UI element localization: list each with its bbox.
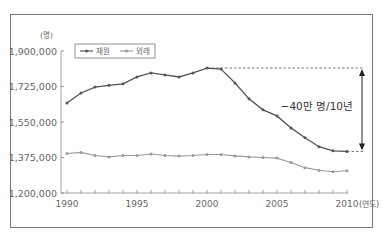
data-point bbox=[66, 101, 69, 104]
data-point bbox=[150, 153, 153, 156]
data-point bbox=[318, 145, 321, 148]
data-point bbox=[332, 149, 335, 152]
data-point bbox=[178, 155, 181, 158]
data-point bbox=[290, 126, 293, 129]
arrow-up-icon bbox=[359, 69, 365, 76]
data-point bbox=[108, 84, 111, 87]
data-point bbox=[276, 157, 279, 160]
y-tick-label: 1,200,000 bbox=[9, 188, 57, 199]
annotation-label: −40만 명/10년 bbox=[281, 100, 353, 112]
y-tick-label: 1,375,000 bbox=[9, 152, 57, 163]
data-point bbox=[262, 108, 265, 111]
y-tick-label: 1,725,000 bbox=[9, 81, 57, 92]
data-point bbox=[178, 75, 181, 78]
legend-marker-0 bbox=[85, 50, 88, 53]
data-point bbox=[192, 154, 195, 157]
data-point bbox=[346, 150, 349, 153]
data-point bbox=[206, 67, 209, 70]
data-point bbox=[136, 75, 139, 78]
y-tick-label: 1,550,000 bbox=[9, 117, 57, 128]
data-point bbox=[248, 155, 251, 158]
data-point bbox=[234, 154, 237, 157]
data-point bbox=[290, 161, 293, 164]
data-point bbox=[122, 154, 125, 157]
data-point bbox=[66, 152, 69, 155]
data-point bbox=[234, 82, 237, 85]
data-point bbox=[164, 154, 167, 157]
legend-marker-1 bbox=[125, 50, 128, 53]
data-point bbox=[262, 156, 265, 159]
x-tick-label: 1990 bbox=[56, 199, 79, 209]
data-point bbox=[80, 91, 83, 94]
data-point bbox=[346, 169, 349, 172]
data-point bbox=[80, 151, 83, 154]
data-point bbox=[248, 97, 251, 100]
x-axis-unit: (연도) bbox=[359, 200, 379, 209]
data-point bbox=[332, 170, 335, 173]
y-axis-unit: (명) bbox=[40, 30, 53, 40]
data-point bbox=[94, 86, 97, 89]
x-tick-label: 1995 bbox=[126, 199, 149, 209]
data-point bbox=[304, 136, 307, 139]
data-point bbox=[108, 155, 111, 158]
legend-label-1: 외래 bbox=[136, 46, 150, 56]
data-point bbox=[220, 68, 223, 71]
data-point bbox=[94, 154, 97, 157]
data-point bbox=[150, 71, 153, 74]
data-point bbox=[206, 153, 209, 156]
data-point bbox=[220, 153, 223, 156]
x-tick-label: 2000 bbox=[196, 199, 219, 209]
data-point bbox=[304, 166, 307, 169]
x-tick-label: 2005 bbox=[266, 199, 289, 209]
data-point bbox=[318, 169, 321, 172]
legend-label-0: 재원 bbox=[96, 47, 110, 56]
y-tick-label: 1,900,000 bbox=[9, 46, 57, 57]
data-point bbox=[192, 71, 195, 74]
line-chart: 1,900,0001,725,0001,550,0001,375,0001,20… bbox=[0, 0, 384, 239]
data-point bbox=[136, 154, 139, 157]
data-point bbox=[122, 82, 125, 85]
data-point bbox=[164, 73, 167, 76]
data-point bbox=[276, 114, 279, 117]
x-tick-label: 2010 bbox=[336, 199, 359, 209]
arrow-down-icon bbox=[359, 143, 365, 150]
